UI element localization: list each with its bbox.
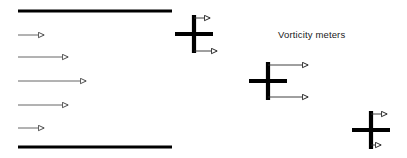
- vorticity-meter-2: [249, 62, 308, 100]
- velocity-profile: [18, 35, 86, 128]
- channel-walls: [18, 11, 172, 147]
- vorticity-meter-1: [175, 15, 217, 53]
- vorticity-meters-label: Vorticity meters: [278, 29, 345, 40]
- diagram-canvas: Vorticity meters: [0, 0, 407, 158]
- vorticity-meter-3: [352, 111, 390, 149]
- vorticity-meter-diagram: Vorticity meters: [0, 0, 407, 158]
